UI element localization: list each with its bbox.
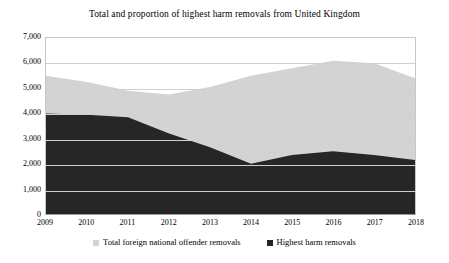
x-axis-tick-label: 2012	[149, 218, 189, 227]
x-axis-tick-label: 2016	[314, 218, 354, 227]
chart-title: Total and proportion of highest harm rem…	[0, 9, 449, 19]
x-axis: 2009201020112012201320142015201620172018	[45, 218, 416, 232]
area-series-svg	[46, 38, 415, 214]
y-axis-tick-label: 6,000	[0, 58, 41, 66]
x-axis-tick-label: 2015	[272, 218, 312, 227]
legend-label: Total foreign national offender removals	[103, 238, 241, 247]
y-axis-tick-label: 3,000	[0, 135, 41, 143]
x-axis-tick-label: 2014	[231, 218, 271, 227]
legend-color-swatch	[267, 240, 273, 246]
legend-label: Highest harm removals	[277, 238, 356, 247]
gridline	[46, 114, 415, 115]
plot-area	[45, 37, 416, 215]
gridline	[46, 140, 415, 141]
gridline	[46, 63, 415, 64]
x-axis-tick-label: 2011	[107, 218, 147, 227]
legend-item[interactable]: Total foreign national offender removals	[93, 238, 241, 247]
y-axis-tick-label: 7,000	[0, 33, 41, 41]
legend-color-swatch	[93, 240, 99, 246]
y-axis-tick-label: 2,000	[0, 160, 41, 168]
y-axis-tick-label: 4,000	[0, 109, 41, 117]
gridline	[46, 191, 415, 192]
chart-container: Total and proportion of highest harm rem…	[0, 0, 449, 263]
y-axis-tick-label: 5,000	[0, 84, 41, 92]
gridline	[46, 165, 415, 166]
y-axis: 01,0002,0003,0004,0005,0006,0007,000	[0, 37, 41, 215]
x-axis-tick-label: 2018	[396, 218, 436, 227]
x-axis-tick-label: 2010	[66, 218, 106, 227]
x-axis-tick-label: 2013	[190, 218, 230, 227]
y-axis-tick-label: 1,000	[0, 186, 41, 194]
legend-item[interactable]: Highest harm removals	[267, 238, 356, 247]
x-axis-tick-label: 2009	[25, 218, 65, 227]
chart-legend: Total foreign national offender removals…	[0, 238, 449, 247]
gridline	[46, 89, 415, 90]
x-axis-tick-label: 2017	[355, 218, 395, 227]
